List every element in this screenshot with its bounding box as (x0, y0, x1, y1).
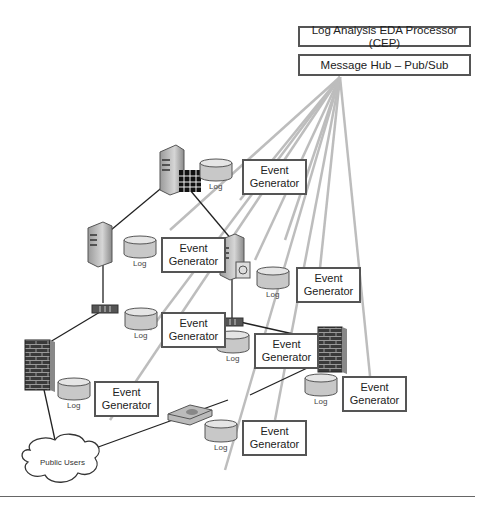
log-label: Log (214, 443, 227, 452)
router-icon (92, 305, 118, 313)
event-generator-box: Event Generator (254, 333, 319, 369)
public-users-label: Public Users (40, 458, 85, 467)
firewall-icon (25, 340, 55, 392)
server-icon (88, 222, 112, 267)
event-generator-box: Event Generator (342, 376, 407, 412)
eda-processor-box: Log Analysis EDA Processor (CEP) (298, 26, 471, 47)
event-generator-label: Event (256, 338, 317, 351)
event-generator-label: Generator (163, 330, 224, 343)
event-generator-label: Event (244, 164, 305, 177)
event-generator-label: Generator (244, 177, 305, 190)
event-generator-box: Event Generator (296, 267, 361, 303)
event-generator-box: Event Generator (242, 159, 307, 195)
log-database-icon (200, 159, 232, 181)
log-label: Log (209, 182, 222, 191)
event-generator-box: Event Generator (242, 420, 307, 456)
log-label: Log (67, 401, 80, 410)
event-generator-box: Event Generator (161, 312, 226, 348)
message-hub-box: Message Hub – Pub/Sub (298, 54, 471, 76)
event-generator-label: Generator (163, 255, 224, 268)
event-generator-label: Event (344, 381, 405, 394)
switch-icon (168, 405, 212, 425)
event-generator-label: Event (163, 242, 224, 255)
event-generator-label: Event (244, 425, 305, 438)
hardware-cube-icon (179, 170, 201, 192)
bottom-divider (0, 496, 475, 497)
event-generator-box: Event Generator (161, 237, 226, 273)
log-database-icon (305, 374, 337, 396)
event-generator-box: Event Generator (94, 381, 159, 417)
log-database-icon (124, 236, 156, 258)
event-generator-label: Generator (244, 438, 305, 451)
event-generator-label: Generator (344, 394, 405, 407)
log-label: Log (226, 354, 239, 363)
log-label: Log (266, 290, 279, 299)
event-generator-label: Generator (96, 399, 157, 412)
log-database-icon (257, 267, 289, 289)
event-generator-label: Generator (298, 285, 359, 298)
event-generator-label: Event (298, 272, 359, 285)
event-generator-label: Generator (256, 351, 317, 364)
event-generator-label: Event (163, 317, 224, 330)
firewall-icon (318, 327, 347, 374)
log-database-icon (58, 378, 90, 400)
log-label: Log (314, 397, 327, 406)
log-label: Log (133, 259, 146, 268)
event-generator-label: Event (96, 386, 157, 399)
log-database-icon (125, 308, 157, 330)
log-database-icon (205, 420, 237, 442)
log-label: Log (134, 331, 147, 340)
